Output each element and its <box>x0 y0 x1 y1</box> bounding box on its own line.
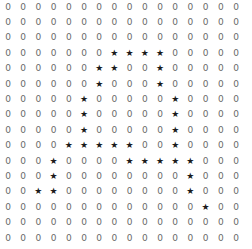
zero-cell: 0 <box>77 184 92 199</box>
zero-cell: 0 <box>107 215 122 230</box>
zero-cell: 0 <box>61 184 76 199</box>
zero-cell: 0 <box>92 92 107 107</box>
zero-cell: 0 <box>213 46 228 61</box>
zero-cell: 0 <box>61 107 76 122</box>
star-cell: ★ <box>107 46 122 61</box>
zero-cell: 0 <box>46 15 61 30</box>
zero-cell: 0 <box>1 77 16 92</box>
zero-cell: 0 <box>31 107 46 122</box>
zero-cell: 0 <box>1 123 16 138</box>
zero-cell: 0 <box>46 138 61 153</box>
star-cell: ★ <box>183 154 198 169</box>
zero-cell: 0 <box>168 200 183 215</box>
zero-cell: 0 <box>1 15 16 30</box>
zero-cell: 0 <box>137 107 152 122</box>
zero-cell: 0 <box>183 138 198 153</box>
star-cell: ★ <box>153 46 168 61</box>
zero-cell: 0 <box>229 61 244 76</box>
star-cell: ★ <box>31 184 46 199</box>
zero-cell: 0 <box>16 15 31 30</box>
zero-cell: 0 <box>183 61 198 76</box>
zero-cell: 0 <box>137 0 152 15</box>
zero-cell: 0 <box>229 154 244 169</box>
zero-cell: 0 <box>198 61 213 76</box>
zero-cell: 0 <box>198 184 213 199</box>
zero-cell: 0 <box>213 215 228 230</box>
zero-cell: 0 <box>137 231 152 246</box>
star-cell: ★ <box>77 123 92 138</box>
star-cell: ★ <box>168 123 183 138</box>
zero-cell: 0 <box>92 184 107 199</box>
star-cell: ★ <box>77 107 92 122</box>
zero-cell: 0 <box>229 215 244 230</box>
zero-cell: 0 <box>137 169 152 184</box>
zero-cell: 0 <box>122 61 137 76</box>
zero-cell: 0 <box>16 0 31 15</box>
zero-cell: 0 <box>77 200 92 215</box>
zero-cell: 0 <box>107 123 122 138</box>
zero-cell: 0 <box>46 107 61 122</box>
zero-cell: 0 <box>198 15 213 30</box>
zero-cell: 0 <box>31 200 46 215</box>
star-cell: ★ <box>92 138 107 153</box>
zero-cell: 0 <box>107 107 122 122</box>
zero-cell: 0 <box>31 215 46 230</box>
zero-cell: 0 <box>16 184 31 199</box>
zero-cell: 0 <box>61 61 76 76</box>
star-cell: ★ <box>153 154 168 169</box>
zero-cell: 0 <box>31 92 46 107</box>
zero-cell: 0 <box>168 215 183 230</box>
star-cell: ★ <box>153 61 168 76</box>
zero-cell: 0 <box>77 15 92 30</box>
zero-cell: 0 <box>122 123 137 138</box>
zero-cell: 0 <box>77 154 92 169</box>
zero-cell: 0 <box>77 231 92 246</box>
zero-cell: 0 <box>229 30 244 45</box>
zero-cell: 0 <box>229 107 244 122</box>
zero-cell: 0 <box>153 30 168 45</box>
zero-cell: 0 <box>183 0 198 15</box>
zero-cell: 0 <box>229 138 244 153</box>
zero-cell: 0 <box>31 0 46 15</box>
zero-cell: 0 <box>61 46 76 61</box>
zero-cell: 0 <box>137 15 152 30</box>
zero-cell: 0 <box>16 92 31 107</box>
zero-cell: 0 <box>183 92 198 107</box>
zero-cell: 0 <box>183 123 198 138</box>
zero-cell: 0 <box>213 169 228 184</box>
zero-cell: 0 <box>168 77 183 92</box>
zero-cell: 0 <box>61 30 76 45</box>
star-cell: ★ <box>92 77 107 92</box>
zero-cell: 0 <box>107 231 122 246</box>
zero-cell: 0 <box>183 215 198 230</box>
zero-cell: 0 <box>183 46 198 61</box>
zero-cell: 0 <box>153 231 168 246</box>
zero-cell: 0 <box>213 154 228 169</box>
zero-cell: 0 <box>183 107 198 122</box>
zero-cell: 0 <box>107 92 122 107</box>
zero-cell: 0 <box>183 30 198 45</box>
zero-cell: 0 <box>16 46 31 61</box>
zero-cell: 0 <box>198 30 213 45</box>
zero-cell: 0 <box>168 0 183 15</box>
zero-cell: 0 <box>31 154 46 169</box>
star-cell: ★ <box>183 184 198 199</box>
zero-cell: 0 <box>122 215 137 230</box>
zero-cell: 0 <box>92 107 107 122</box>
star-cell: ★ <box>122 154 137 169</box>
zero-cell: 0 <box>46 77 61 92</box>
zero-cell: 0 <box>122 200 137 215</box>
zero-cell: 0 <box>213 30 228 45</box>
zero-cell: 0 <box>137 215 152 230</box>
zero-cell: 0 <box>16 77 31 92</box>
zero-cell: 0 <box>92 30 107 45</box>
zero-cell: 0 <box>122 30 137 45</box>
zero-cell: 0 <box>107 77 122 92</box>
zero-cell: 0 <box>153 215 168 230</box>
star-cell: ★ <box>168 107 183 122</box>
zero-cell: 0 <box>1 92 16 107</box>
zero-cell: 0 <box>137 77 152 92</box>
zero-cell: 0 <box>1 231 16 246</box>
zero-cell: 0 <box>31 46 46 61</box>
zero-cell: 0 <box>61 77 76 92</box>
